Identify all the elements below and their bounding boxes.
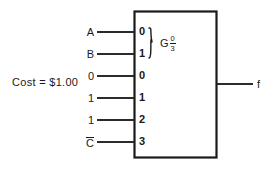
mux-block-body <box>135 12 217 158</box>
output-label-f: f <box>257 79 260 90</box>
pin-number-data-0: 0 <box>139 70 145 81</box>
input-label-const1-b: 1 <box>78 115 94 126</box>
pin-number-select-1: 1 <box>139 48 145 59</box>
input-label-b: B <box>78 49 94 60</box>
pin-number-data-1: 1 <box>139 92 145 103</box>
input-label-const1-a: 1 <box>78 93 94 104</box>
fraction-denominator: 3 <box>170 44 176 52</box>
input-label-cbar: C <box>76 137 94 149</box>
input-label-cbar-text: C <box>86 137 94 149</box>
block-qualifier-fraction: 0 3 <box>170 35 176 52</box>
block-qualifier-label: G 0 3 <box>160 35 176 52</box>
pin-number-data-3: 3 <box>139 136 145 147</box>
cost-label: Cost = $1.00 <box>12 77 78 88</box>
input-label-const0: 0 <box>78 71 94 82</box>
fraction-numerator: 0 <box>170 35 176 43</box>
pin-number-select-0: 0 <box>139 26 145 37</box>
input-label-a: A <box>78 27 94 38</box>
pin-number-data-2: 2 <box>139 114 145 125</box>
block-qualifier-letter: G <box>160 38 169 49</box>
